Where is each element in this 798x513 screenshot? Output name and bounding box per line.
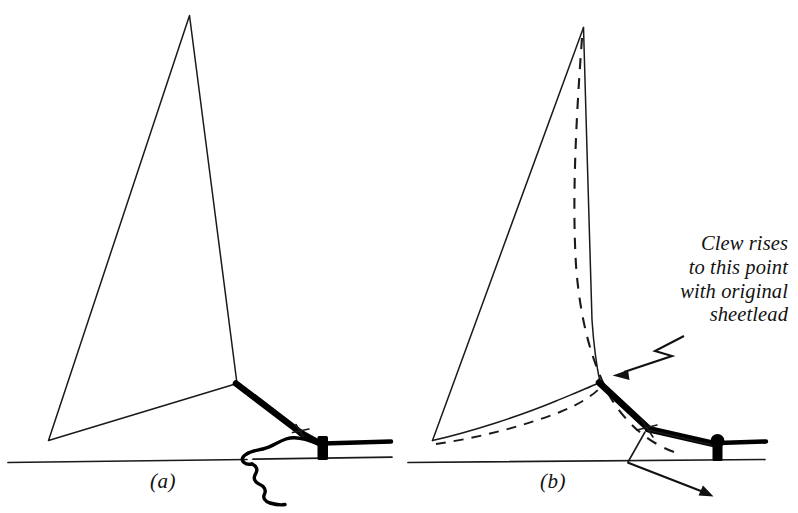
slack-sheet-loop-a (248, 438, 319, 454)
sail-leech-b (584, 28, 601, 383)
figure-root: Clew rises to this point with original s… (0, 0, 798, 513)
tension-arrow-line-b (628, 463, 707, 494)
slack-sheet-tail-a (252, 464, 285, 505)
sheet-guide-b (648, 430, 712, 445)
sheet-line-b-lower (648, 429, 714, 444)
deck-line-b (408, 460, 765, 463)
callout-leader-line-b (624, 336, 684, 372)
sheet-block-sheave-b (711, 434, 725, 448)
sail-foot-b (433, 383, 601, 441)
callout-arrow-head-b (613, 370, 630, 380)
sheet-track-b (718, 442, 766, 444)
sheet-strut-b (628, 432, 645, 462)
sail-luff-b (433, 28, 584, 441)
sheet-line-b-upper (599, 383, 649, 430)
panel-label-a: (a) (150, 471, 176, 492)
panel-label-b: (b) (540, 471, 566, 492)
sheet-block-a (318, 436, 329, 460)
callout-annotation-text: Clew rises to this point with original s… (592, 232, 788, 327)
panel-a-group (8, 16, 392, 505)
sail-outline-a (49, 16, 238, 441)
deck-line-a-left (8, 460, 247, 463)
sheet-track-a (323, 442, 391, 444)
tension-arrow-head-b (699, 486, 714, 497)
sheet-line-a (236, 384, 303, 435)
